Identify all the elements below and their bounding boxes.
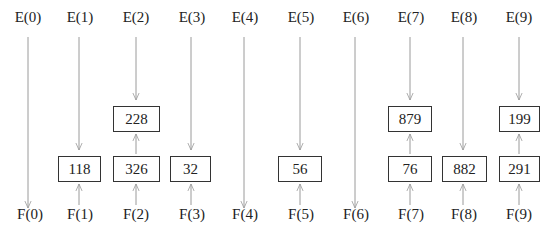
label-f8: F(8): [451, 206, 477, 223]
box-lower-9: 291: [499, 156, 540, 182]
box-upper-9: 199: [499, 106, 540, 132]
label-f9: F(9): [506, 206, 532, 223]
label-e6: E(6): [343, 9, 370, 26]
label-e5: E(5): [288, 9, 315, 26]
box-upper-2: 228: [113, 106, 160, 132]
label-f5: F(5): [288, 206, 314, 223]
label-f1: F(1): [67, 206, 93, 223]
label-e1: E(1): [67, 9, 94, 26]
box-lower-7: 76: [388, 156, 432, 182]
label-f7: F(7): [398, 206, 424, 223]
box-lower-8: 882: [442, 156, 487, 182]
box-lower-1: 118: [58, 156, 101, 182]
box-upper-7: 879: [388, 106, 432, 132]
box-lower-3: 32: [170, 156, 211, 182]
label-f2: F(2): [123, 206, 149, 223]
label-f3: F(3): [179, 206, 205, 223]
box-lower-5: 56: [278, 156, 322, 182]
label-f6: F(6): [343, 206, 369, 223]
label-f0: F(0): [17, 206, 43, 223]
label-e7: E(7): [398, 9, 425, 26]
label-e0: E(0): [15, 9, 42, 26]
box-lower-2: 326: [113, 156, 160, 182]
label-e2: E(2): [123, 9, 150, 26]
label-e9: E(9): [506, 9, 533, 26]
label-e3: E(3): [179, 9, 206, 26]
label-e4: E(4): [232, 9, 259, 26]
label-f4: F(4): [232, 206, 258, 223]
arrows-layer: [0, 0, 555, 230]
label-e8: E(8): [451, 9, 478, 26]
